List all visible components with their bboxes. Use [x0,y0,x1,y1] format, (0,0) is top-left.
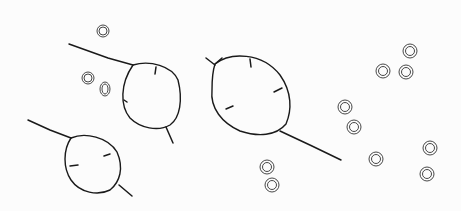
pod-lower-left [28,120,132,196]
pod-upper-left [69,44,180,143]
pod-center [206,56,341,160]
sketch-canvas [0,0,461,211]
seed-pod-sketch [0,0,461,211]
seeds [82,25,437,192]
